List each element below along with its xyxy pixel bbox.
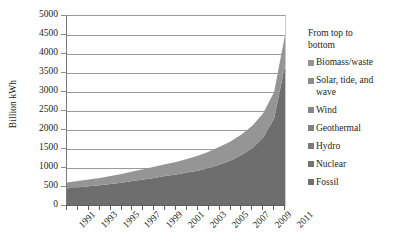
- y-axis-tick-label: 1000: [39, 162, 58, 172]
- y-axis-tick-labels: 0500100015002000250030003500400045005000: [22, 15, 62, 205]
- y-axis-tick-label: 0: [53, 200, 58, 210]
- x-axis-tick-label: 1997: [143, 210, 163, 230]
- y-axis-tick-label: 5000: [39, 10, 58, 20]
- legend-item-label: Geothermal: [316, 123, 361, 135]
- legend-swatch-icon: [308, 107, 314, 113]
- legend-swatch-icon: [308, 161, 314, 167]
- legend-item[interactable]: Nuclear: [308, 159, 392, 171]
- legend-item-label: Hydro: [316, 141, 340, 153]
- y-axis-tick-label: 2000: [39, 124, 58, 134]
- legend-item-label: Fossil: [316, 177, 339, 189]
- y-axis-title: Billion kWh: [2, 0, 24, 208]
- plot-area: [66, 15, 286, 206]
- y-axis-tick-label: 1500: [39, 143, 58, 153]
- x-axis-tick-label: 1995: [121, 210, 141, 230]
- legend-item-label: Nuclear: [316, 159, 346, 171]
- x-axis-tick-label: 2011: [295, 210, 315, 230]
- x-axis-tick-labels: 1991199319951997199920012003200520072009…: [66, 210, 286, 249]
- x-axis-tick-label: 1991: [78, 210, 98, 230]
- legend-item[interactable]: Hydro: [308, 141, 392, 153]
- legend-swatch-icon: [308, 125, 314, 131]
- legend-swatch-icon: [308, 143, 314, 149]
- x-axis-tick-label: 2009: [274, 210, 294, 230]
- y-axis-tick-label: 500: [44, 181, 58, 191]
- x-axis-tick-label: 2005: [230, 210, 250, 230]
- x-axis-tick-label: 1999: [165, 210, 185, 230]
- y-axis-tick-label: 3000: [39, 86, 58, 96]
- legend: From top to bottom Biomass/wasteSolar, t…: [308, 28, 392, 195]
- legend-item[interactable]: Biomass/waste: [308, 57, 392, 69]
- y-axis-title-text: Billion kWh: [8, 80, 18, 128]
- y-axis-tick-label: 4500: [39, 29, 58, 39]
- legend-swatch-icon: [308, 179, 314, 185]
- legend-item-label: Solar, tide, and wave: [316, 75, 392, 98]
- legend-heading: From top to bottom: [308, 28, 382, 51]
- legend-item-label: Biomass/waste: [316, 57, 373, 69]
- x-axis-tick-label: 2003: [208, 210, 228, 230]
- legend-swatch-icon: [308, 78, 314, 84]
- legend-item[interactable]: Solar, tide, and wave: [308, 75, 392, 98]
- legend-item[interactable]: Geothermal: [308, 123, 392, 135]
- y-axis-tick-label: 4000: [39, 48, 58, 58]
- y-axis-tick-label: 3500: [39, 67, 58, 77]
- area-series-group: [67, 16, 285, 206]
- x-axis-tick-label: 2007: [252, 210, 272, 230]
- y-axis-tick-label: 2500: [39, 105, 58, 115]
- x-axis-tick-label: 1993: [99, 210, 119, 230]
- legend-item[interactable]: Wind: [308, 105, 392, 117]
- x-axis-tick-label: 2001: [187, 210, 207, 230]
- stacked-area-chart: Billion kWh 0500100015002000250030003500…: [0, 0, 394, 249]
- legend-item-label: Wind: [316, 105, 337, 117]
- legend-swatch-icon: [308, 60, 314, 66]
- legend-item[interactable]: Fossil: [308, 177, 392, 189]
